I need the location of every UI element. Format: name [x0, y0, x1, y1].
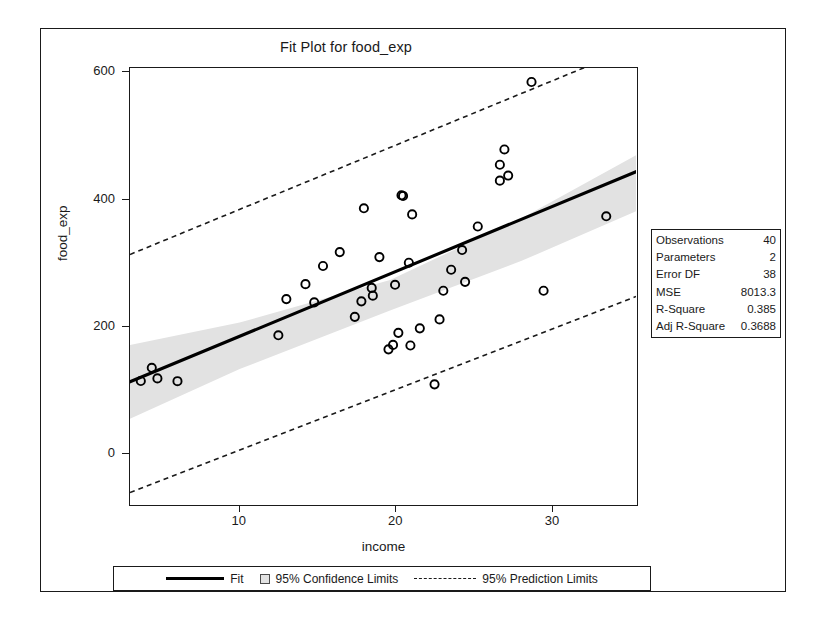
data-point	[394, 329, 402, 337]
figure-panel: Fit Plot for food_exp food_exp income 02…	[40, 28, 786, 592]
legend-item-label: 95% Prediction Limits	[482, 572, 597, 586]
data-point	[496, 161, 504, 169]
stat-label: Error DF	[652, 266, 734, 283]
stat-value: 2	[734, 249, 780, 266]
page-title: Fit Plot for food_exp	[41, 39, 651, 55]
legend-item-fit: Fit	[166, 572, 243, 586]
stat-value: 40	[734, 232, 780, 249]
data-point	[319, 262, 327, 270]
data-point	[496, 177, 504, 185]
y-tick-label: 200	[71, 318, 115, 333]
stat-value: 38	[734, 266, 780, 283]
y-tick-label: 600	[71, 63, 115, 78]
data-point	[527, 78, 535, 86]
confidence-band	[130, 155, 636, 419]
x-tick-label: 10	[219, 513, 259, 528]
table-row: R-Square0.385	[652, 301, 780, 318]
legend-item-label: 95% Confidence Limits	[276, 572, 399, 586]
x-tick-mark	[239, 505, 240, 512]
data-point	[416, 324, 424, 332]
legend-item-confidence: 95% Confidence Limits	[260, 572, 399, 586]
x-axis-label: income	[129, 539, 638, 554]
y-tick-mark	[122, 326, 129, 327]
dashed-line-icon	[414, 578, 476, 579]
y-tick-label: 400	[71, 191, 115, 206]
data-point	[500, 145, 508, 153]
filled-square-icon	[260, 574, 270, 584]
x-tick-label: 20	[375, 513, 415, 528]
data-point	[408, 210, 416, 218]
stat-label: MSE	[652, 284, 734, 301]
data-point	[282, 295, 290, 303]
plot-canvas	[130, 68, 636, 504]
statistics-table: Observations40Parameters2Error DF38MSE80…	[652, 232, 780, 335]
table-row: Adj R-Square0.3688	[652, 318, 780, 335]
data-point	[406, 341, 414, 349]
data-point	[430, 380, 438, 388]
prediction-limit-lower	[130, 297, 636, 493]
statistics-box: Observations40Parameters2Error DF38MSE80…	[651, 229, 781, 338]
y-axis-label: food_exp	[55, 205, 70, 261]
fit-line	[130, 172, 636, 382]
y-tick-mark	[122, 199, 129, 200]
data-point	[474, 222, 482, 230]
stat-label: R-Square	[652, 301, 734, 318]
data-point	[360, 204, 368, 212]
stat-label: Adj R-Square	[652, 318, 734, 335]
plot-area	[129, 67, 638, 506]
y-tick-label: 0	[71, 445, 115, 460]
x-tick-mark	[395, 505, 396, 512]
stat-value: 0.3688	[734, 318, 780, 335]
stat-label: Observations	[652, 232, 734, 249]
data-point	[336, 248, 344, 256]
legend: Fit 95% Confidence Limits 95% Prediction…	[113, 566, 651, 591]
stat-label: Parameters	[652, 249, 734, 266]
stat-value: 8013.3	[734, 284, 780, 301]
data-point	[539, 287, 547, 295]
table-row: Error DF38	[652, 266, 780, 283]
legend-item-label: Fit	[230, 572, 243, 586]
data-point	[375, 253, 383, 261]
y-tick-mark	[122, 453, 129, 454]
legend-item-prediction: 95% Prediction Limits	[414, 572, 597, 586]
data-point	[301, 280, 309, 288]
stat-value: 0.385	[734, 301, 780, 318]
table-row: Parameters2	[652, 249, 780, 266]
table-row: MSE8013.3	[652, 284, 780, 301]
x-tick-label: 30	[532, 513, 572, 528]
solid-line-icon	[166, 577, 224, 580]
x-tick-mark	[552, 505, 553, 512]
data-point	[435, 315, 443, 323]
data-point	[504, 171, 512, 179]
y-tick-mark	[122, 71, 129, 72]
table-row: Observations40	[652, 232, 780, 249]
